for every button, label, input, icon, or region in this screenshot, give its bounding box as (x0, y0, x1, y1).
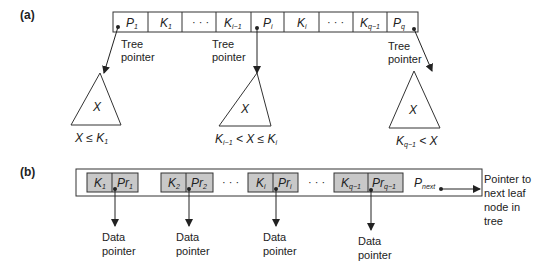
b-plus-tree-node-diagram: (a) P1 K1 · · · Ki−1 Pi Ki · · · Kq−1 Pq… (0, 0, 547, 266)
subtree-2-condition: Ki−1 < X ≤ Ki (215, 132, 278, 146)
leaf-ellipsis-1: · · · (222, 176, 239, 188)
leaf-ellipsis-2: · · · (308, 176, 325, 188)
tree-pointer-arrow-1 (104, 27, 118, 73)
subtree-1: X X ≤ K1 (71, 73, 121, 145)
subtree-3-symbol: X (408, 103, 418, 117)
data-pointer-label-3: Datapointer (263, 231, 297, 257)
subtree-3: X Kq−1 < X (389, 71, 440, 149)
next-leaf-label: Pointer to next leaf node in tree (484, 173, 534, 227)
part-a-label: (a) (20, 8, 35, 22)
subtree-2-symbol: X (240, 102, 250, 116)
data-pointer-label-4: Datapointer (358, 235, 392, 261)
tree-pointer-label-1: Treepointer (121, 38, 155, 63)
leaf-pri: Pri (278, 176, 292, 190)
data-pointer-label-1: Datapointer (102, 231, 136, 257)
internal-node: P1 K1 · · · Ki−1 Pi Ki · · · Kq−1 Pq (113, 12, 418, 32)
tree-pointer-label-2: Treepointer (212, 38, 246, 63)
subtree-1-condition: X ≤ K1 (74, 131, 108, 145)
part-b-label: (b) (20, 165, 35, 179)
data-pointer-label-2: Datapointer (176, 231, 210, 257)
leaf-node: K1 Pr1 K2 Pr2 · · · Ki Pri · · · Kq−1 Pr… (76, 169, 482, 196)
tree-pointer-label-3: Treepointer (388, 40, 422, 65)
subtree-3-condition: Kq−1 < X (396, 134, 439, 149)
subtree-2: X Ki−1 < X ≤ Ki (215, 73, 278, 146)
cell-ellipsis-1: · · · (192, 16, 209, 28)
cell-ellipsis-2: · · · (327, 16, 344, 28)
subtree-1-symbol: X (92, 100, 102, 114)
